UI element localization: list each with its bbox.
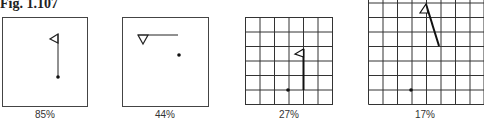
- figure-canvas: [0, 0, 484, 125]
- ball-dot-icon: [286, 88, 290, 92]
- flag-icon: [420, 4, 428, 13]
- caption-17: 17%: [395, 109, 455, 120]
- panel-27: [246, 18, 333, 105]
- flag-icon: [50, 34, 58, 43]
- flag-icon: [138, 35, 148, 44]
- caption-85: 85%: [15, 109, 75, 120]
- ball-dot-icon: [177, 53, 181, 57]
- ball-dot-icon: [56, 75, 60, 79]
- flag-icon: [295, 49, 304, 57]
- panel-17: [369, 0, 484, 105]
- panel-44: [123, 18, 209, 107]
- ball-dot-icon: [409, 88, 413, 92]
- caption-27: 27%: [259, 109, 319, 120]
- panel-85: [3, 18, 88, 107]
- caption-44: 44%: [135, 109, 195, 120]
